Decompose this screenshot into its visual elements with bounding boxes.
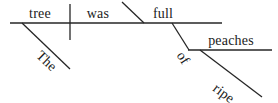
word-tree: tree — [29, 7, 51, 21]
sentence-diagram: tree was full peaches The of ripe — [0, 0, 278, 103]
verb-complement-divider — [122, 2, 144, 23]
word-peaches: peaches — [208, 34, 254, 48]
preposition-slant-of — [172, 23, 189, 50]
word-was: was — [87, 7, 109, 21]
word-full: full — [153, 7, 173, 21]
